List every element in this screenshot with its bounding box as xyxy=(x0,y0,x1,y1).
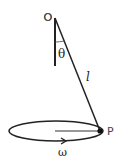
pivot-label: O xyxy=(44,11,53,24)
conical-pendulum-diagram: O θ l P ω xyxy=(0,0,128,166)
string-line xyxy=(55,18,100,131)
bob-label: P xyxy=(107,125,114,138)
angle-arc xyxy=(55,41,65,42)
angular-velocity-label: ω xyxy=(58,146,67,159)
length-label: l xyxy=(86,70,90,84)
bob-dot xyxy=(97,128,102,133)
angle-label: θ xyxy=(58,47,65,61)
